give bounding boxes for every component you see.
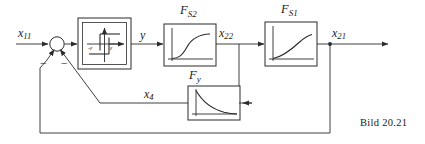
- fs2-block-label: FS2: [180, 4, 197, 19]
- input-signal-label: x11: [18, 27, 31, 41]
- summing-junction: [50, 37, 64, 51]
- x21-signal-label: x21: [332, 27, 346, 41]
- figure-caption: Bild 20.21: [360, 117, 407, 128]
- y-signal-label: y: [140, 29, 145, 41]
- inner-feedback-arrow: [47, 50, 54, 60]
- hysteresis-pos-epsilon-label: ε: [110, 45, 112, 51]
- fs1-block-label: FS1: [281, 3, 298, 18]
- hysteresis-neg-epsilon-label: -ε: [88, 45, 92, 51]
- x22-signal-label: x22: [219, 27, 233, 41]
- outer-feedback-sign: −: [61, 57, 68, 69]
- figure-canvas: x11 − − -ε ε y FS2 x22 FS1 x21 Fy x4 Bil…: [0, 0, 425, 144]
- x4-signal-label: x4: [144, 88, 154, 102]
- fy-block-label: Fy: [189, 69, 201, 84]
- inner-feedback-sign: −: [40, 57, 47, 69]
